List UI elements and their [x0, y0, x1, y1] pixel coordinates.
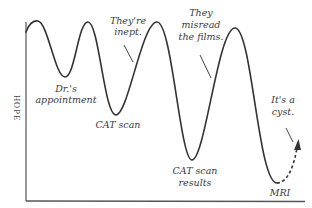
- pointer-inept: [124, 45, 133, 62]
- dashed-rise: [277, 148, 297, 183]
- hope-chart: HOPE Dr.'s appointment They're inept. CA…: [0, 0, 312, 208]
- label-dr-line2: appointment: [35, 94, 96, 105]
- label-cat-results-line1: CAT scan: [173, 165, 218, 176]
- label-inept-line1: They're: [110, 15, 147, 26]
- label-mri: MRI: [269, 187, 291, 198]
- label-cat-scan: CAT scan: [96, 119, 141, 130]
- label-misread-line1: They: [189, 7, 213, 18]
- arrowhead-icon: [294, 139, 301, 150]
- label-misread-line3: the films.: [179, 31, 224, 42]
- label-inept-line2: inept.: [114, 26, 142, 37]
- y-axis-label: HOPE: [12, 95, 22, 121]
- label-dr-line1: Dr.'s: [54, 83, 77, 94]
- label-misread-line2: misread: [182, 19, 221, 30]
- label-cyst-line1: It's a: [270, 94, 295, 105]
- x-axis: [26, 201, 305, 202]
- label-cyst-line2: cyst.: [272, 106, 294, 117]
- pointer-misread: [200, 55, 211, 78]
- label-cat-results-line2: results: [179, 177, 212, 188]
- pointer-cyst: [286, 128, 293, 142]
